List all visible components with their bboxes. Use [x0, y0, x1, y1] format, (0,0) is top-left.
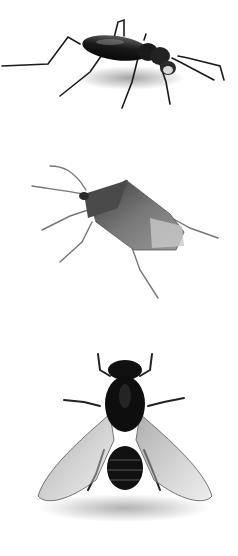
stink-bug-illustration [0, 150, 238, 310]
stink-bug-icon [0, 150, 238, 310]
fly-icon [0, 340, 238, 556]
fly-illustration [0, 340, 238, 556]
beetle-icon [0, 0, 238, 130]
beetle-illustration [0, 0, 238, 130]
